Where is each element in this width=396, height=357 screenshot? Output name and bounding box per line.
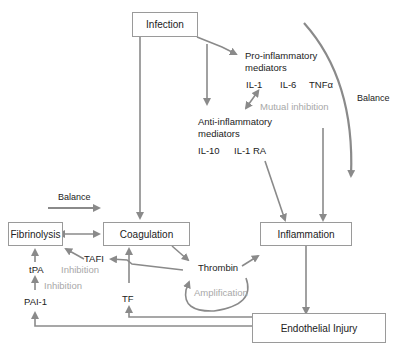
anti-inflammatory-label-2: mediators	[198, 128, 240, 140]
thrombin-label: Thrombin	[198, 262, 238, 274]
pro-inflammatory-label-1: Pro-inflammatory	[245, 50, 317, 62]
pai1-label: PAI-1	[24, 296, 47, 308]
inhibition-pai-label: Inhibition	[44, 280, 82, 292]
amplification-label: Amplification	[194, 287, 248, 299]
inflammation-box: Inflammation	[260, 222, 352, 246]
pro-inflammatory-label-2: mediators	[245, 62, 287, 74]
tnfa-label: TNFα	[309, 79, 333, 91]
il10-label: IL-10	[198, 145, 220, 157]
endothelial-injury-box: Endothelial Injury	[252, 313, 386, 343]
tpa-label: tPA	[29, 264, 44, 276]
diagram-arrows	[0, 0, 396, 357]
mutual-inhibition-label: Mutual inhibition	[260, 101, 329, 113]
balance-right-label: Balance	[357, 92, 390, 104]
infection-box: Infection	[132, 12, 198, 37]
anti-inflammatory-label-1: Anti-inflammatory	[198, 116, 272, 128]
balance-left-label: Balance	[58, 191, 91, 203]
il1ra-label: IL-1 RA	[234, 145, 266, 157]
coagulation-box: Coagulation	[103, 222, 190, 246]
inhibition-tafi-label: Inhibition	[61, 264, 99, 276]
il6-label: IL-6	[280, 79, 296, 91]
fibrinolysis-box: Fibrinolysis	[8, 222, 63, 246]
tf-label: TF	[122, 293, 134, 305]
il1-label: IL-1	[246, 79, 262, 91]
